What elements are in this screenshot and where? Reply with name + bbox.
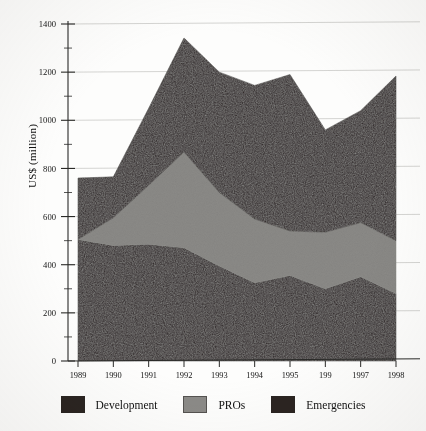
x-tick-label: 1997 — [352, 371, 369, 380]
legend-swatch-pros — [183, 396, 207, 413]
x-axis-tick-labels: 198919901991199219931994199519919971998 — [70, 371, 405, 380]
y-tick-label: 800 — [43, 164, 56, 174]
x-tick-label: 1998 — [388, 371, 405, 380]
area-chart: 0200400600800100012001400 19891990199119… — [0, 0, 426, 431]
y-tick-label: 200 — [43, 308, 56, 318]
y-axis — [61, 21, 75, 361]
y-tick-label: 1000 — [39, 115, 56, 125]
legend-label-emergencies: Emergencies — [306, 399, 365, 411]
legend-swatch-emergencies — [271, 396, 295, 413]
legend-item-pros[interactable]: PROs — [183, 396, 245, 413]
legend-item-development[interactable]: Development — [61, 396, 158, 413]
y-tick-label: 400 — [43, 260, 56, 270]
x-tick-label: 1993 — [211, 371, 228, 380]
chart-legend: Development PROs Emergencies — [0, 396, 426, 413]
legend-label-development: Development — [96, 399, 158, 411]
x-tick-label: 1995 — [282, 371, 299, 380]
x-tick-label: 199 — [319, 371, 332, 380]
y-tick-label: 1200 — [39, 67, 56, 77]
chart-series-areas — [78, 38, 396, 361]
y-axis-title: US$ (million) — [26, 96, 38, 216]
x-tick-label: 1989 — [70, 371, 87, 380]
y-tick-label: 0 — [52, 356, 56, 366]
figure-container: 0200400600800100012001400 19891990199119… — [0, 0, 426, 431]
x-tick-label: 1990 — [105, 371, 122, 380]
legend-swatch-development — [61, 396, 85, 413]
x-tick-label: 1992 — [176, 371, 193, 380]
y-tick-label: 600 — [43, 212, 56, 222]
legend-item-emergencies[interactable]: Emergencies — [271, 396, 365, 413]
x-tick-label: 1994 — [246, 371, 264, 380]
y-tick-label: 1400 — [39, 19, 56, 29]
x-tick-label: 1991 — [140, 371, 157, 380]
legend-label-pros: PROs — [218, 399, 245, 411]
y-axis-tick-labels: 0200400600800100012001400 — [39, 19, 56, 366]
